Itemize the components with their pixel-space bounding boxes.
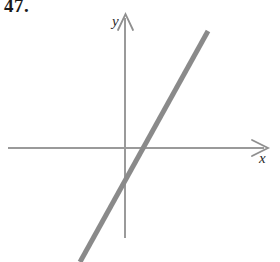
y-axis-label: y <box>112 14 119 29</box>
coordinate-plane-graphic <box>0 0 280 262</box>
figure-container: 47. y x <box>0 0 280 262</box>
plotted-line <box>80 31 208 262</box>
x-axis-label: x <box>259 151 266 166</box>
